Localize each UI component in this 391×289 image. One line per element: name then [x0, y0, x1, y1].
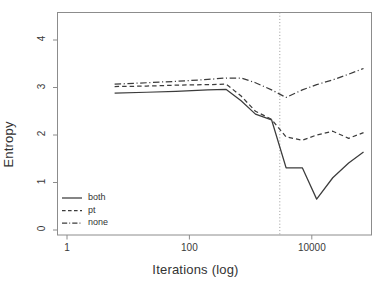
series-line-both: [115, 89, 364, 199]
y-tick-label: 4: [36, 30, 47, 48]
x-axis-ticks: [67, 235, 312, 240]
x-tick-label: 1: [37, 242, 97, 253]
x-axis-title: Iterations (log): [0, 262, 391, 277]
entropy-vs-iterations-chart: Iterations (log) Entropy 110010000 01234…: [0, 0, 391, 289]
y-tick-label: 0: [36, 220, 47, 238]
x-tick-label: 100: [159, 242, 219, 253]
legend-label-pt: pt: [88, 205, 96, 215]
y-tick-label: 1: [36, 172, 47, 190]
series-line-none: [115, 69, 364, 98]
x-tick-label: 10000: [282, 242, 342, 253]
y-axis-title: Entropy: [0, 0, 18, 289]
legend-label-none: none: [88, 217, 108, 227]
data-series: [115, 69, 364, 200]
y-tick-label: 2: [36, 125, 47, 143]
y-axis-ticks: [53, 40, 58, 230]
legend-label-both: both: [88, 192, 106, 202]
y-tick-label: 3: [36, 77, 47, 95]
legend-line-samples: [62, 198, 82, 223]
